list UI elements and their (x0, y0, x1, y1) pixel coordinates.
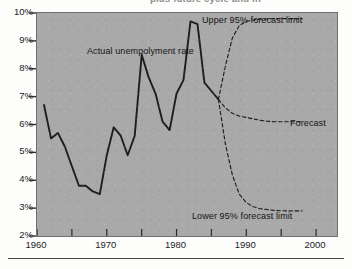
annotation-lower-limit: Lower 95% forecast limit (192, 212, 292, 221)
x-axis-labels: 19601970198019902000 (0, 240, 352, 256)
x-axis-tick-label: 1960 (16, 240, 56, 250)
page-horizontal-rule (8, 258, 344, 259)
annotation-upper-limit: Upper 95% forecast limit (202, 16, 302, 25)
x-axis-tick-label: 1980 (156, 240, 196, 250)
annotation-forecast-series: Forecast (290, 119, 326, 128)
plot-area: Actual unempolyment rate Upper 95% forec… (36, 12, 338, 237)
x-axis-tick-label: 2000 (295, 240, 335, 250)
annotation-actual-series: Actual unempolyment rate (87, 47, 194, 56)
x-axis-tick-label: 1990 (225, 240, 265, 250)
unemployment-forecast-chart: 2%3%4%5%6%7%8%9%10% Actual unempolyment … (0, 0, 352, 269)
x-axis-tick-label: 1970 (86, 240, 126, 250)
x-axis-tick-marks (37, 229, 316, 236)
series-line (218, 19, 302, 100)
figure-page: plus future cycle and in 2%3%4%5%6%7%8%9… (0, 0, 352, 269)
series-line (218, 99, 302, 210)
